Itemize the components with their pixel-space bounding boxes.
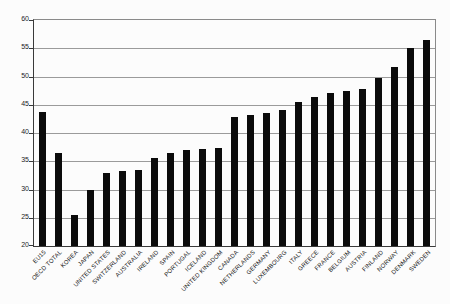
bar-france <box>327 93 334 246</box>
bar-spain <box>167 153 174 246</box>
bar-luxembourg <box>279 110 286 246</box>
gridline <box>34 48 435 49</box>
bar-chart: 202530354045505560 EU15OECD TOTALKOREAJA… <box>0 0 450 304</box>
y-axis-tick-label: 55 <box>0 43 29 51</box>
bar-netherlands <box>247 115 254 246</box>
bar-oecd-total <box>55 153 62 246</box>
bar-denmark <box>407 48 414 246</box>
bar-norway <box>391 67 398 246</box>
y-axis-tick <box>29 20 34 21</box>
bar-italy <box>295 102 302 246</box>
plot-area <box>33 19 436 247</box>
bar-australia <box>135 170 142 246</box>
y-axis-tick <box>29 161 34 162</box>
bar-belgium <box>343 91 350 246</box>
y-axis-tick-label: 20 <box>0 241 29 249</box>
y-axis-tick-label: 25 <box>0 213 29 221</box>
y-axis-tick <box>29 245 34 246</box>
bar-korea <box>71 215 78 246</box>
bar-finland <box>375 78 382 246</box>
bar-germany <box>263 113 270 246</box>
bar-portugal <box>183 150 190 246</box>
y-axis-tick <box>29 105 34 106</box>
bar-eu15 <box>39 112 46 246</box>
bar-greece <box>311 97 318 246</box>
y-axis-tick <box>29 133 34 134</box>
y-axis-tick <box>29 218 34 219</box>
bar-ireland <box>151 158 158 246</box>
bar-united-kingdom <box>215 148 222 246</box>
bar-united-states <box>103 173 110 246</box>
bar-canada <box>231 117 238 246</box>
y-axis-tick <box>29 48 34 49</box>
bar-iceland <box>199 149 206 246</box>
y-axis-tick-label: 45 <box>0 100 29 108</box>
y-axis-tick-label: 30 <box>0 185 29 193</box>
y-axis-tick-label: 60 <box>0 15 29 23</box>
bar-switzerland <box>119 171 126 246</box>
y-axis-tick <box>29 77 34 78</box>
y-axis-tick-label: 40 <box>0 128 29 136</box>
bar-austria <box>359 89 366 246</box>
bar-sweden <box>423 40 430 246</box>
y-axis-tick <box>29 190 34 191</box>
y-axis-tick-label: 35 <box>0 156 29 164</box>
bar-japan <box>87 190 94 247</box>
y-axis-tick-label: 50 <box>0 72 29 80</box>
